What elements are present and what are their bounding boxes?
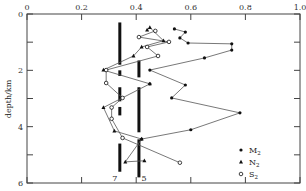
data-point-S2	[137, 35, 141, 39]
data-point-M2	[178, 36, 181, 39]
data-point-M2	[230, 42, 233, 45]
x-tick-label: 0.8	[239, 3, 252, 12]
data-point-S2	[104, 81, 108, 85]
legend-marker-M2	[239, 148, 242, 151]
y-tick-label: 0	[18, 10, 23, 19]
x-tick-label: 0.6	[184, 3, 197, 12]
data-point-S2	[110, 106, 114, 110]
data-point-S2	[121, 96, 125, 100]
data-point-M2	[189, 128, 192, 131]
data-point-S2	[167, 40, 171, 44]
data-point-M2	[170, 96, 173, 99]
data-point-S2	[145, 45, 149, 49]
data-point-S2	[156, 54, 160, 58]
legend-subscript: 2	[254, 174, 258, 180]
data-point-S2	[178, 161, 182, 165]
reference-bar-label: 5	[141, 174, 146, 183]
x-tick-label: 1.0	[294, 3, 306, 12]
data-point-M2	[203, 56, 206, 59]
data-point-M2	[184, 30, 187, 33]
y-tick-label: 2	[18, 66, 23, 75]
y-tick-label: 6	[18, 179, 23, 188]
legend-subscript: 2	[256, 162, 260, 168]
data-point-M2	[230, 48, 233, 51]
legend-marker-S2	[239, 172, 243, 176]
data-point-S2	[121, 136, 125, 140]
data-point-M2	[238, 111, 241, 114]
legend-subscript: 2	[257, 150, 261, 156]
x-tick-label: 0.2	[75, 3, 88, 12]
chart: 00.20.40.60.81.00246 75 M2N2S2 depth/km	[0, 0, 306, 191]
data-point-M2	[184, 83, 187, 86]
y-tick-label: 4	[18, 123, 23, 132]
data-point-M2	[148, 68, 151, 71]
x-tick-label: 0	[24, 3, 29, 12]
data-point-M2	[186, 41, 189, 44]
reference-bar-label: 7	[112, 174, 117, 183]
data-point-S2	[110, 117, 114, 121]
data-point-S2	[154, 29, 158, 33]
data-point-S2	[104, 68, 108, 72]
x-tick-label: 0.4	[130, 3, 143, 12]
data-point-M2	[173, 27, 176, 30]
y-axis-title: depth/km	[4, 79, 13, 118]
